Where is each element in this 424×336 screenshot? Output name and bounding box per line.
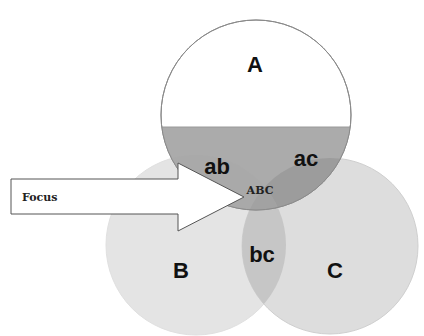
label-ac: ac	[294, 146, 318, 171]
label-abc: ABC	[246, 184, 274, 197]
label-bc: bc	[249, 242, 275, 267]
label-a: A	[247, 52, 263, 77]
label-c: C	[327, 258, 343, 283]
focus-label: Focus	[22, 191, 57, 204]
label-b: B	[173, 258, 189, 283]
label-ab: ab	[204, 154, 230, 179]
venn-diagram: Focus A B C ab ac bc ABC	[0, 0, 424, 336]
